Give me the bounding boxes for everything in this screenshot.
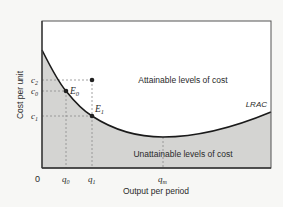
x-tick-qm: qm bbox=[158, 174, 168, 185]
x-tick-q0: q0 bbox=[62, 174, 70, 185]
y-tick-c2: c2 bbox=[31, 75, 38, 86]
lrac-label: LRAC bbox=[246, 100, 268, 109]
y-tick-c0: c0 bbox=[31, 86, 38, 97]
lrac-diagram: E0 E1 c2 c0 c1 0 q0 q1 qm Output per per… bbox=[0, 0, 283, 207]
x-tick-q1: q1 bbox=[88, 174, 96, 185]
x-axis-title: Output per period bbox=[123, 186, 189, 196]
point-e1 bbox=[90, 114, 95, 119]
attainable-label: Attainable levels of cost bbox=[138, 75, 228, 85]
unattainable-label: Unattainable levels of cost bbox=[133, 149, 233, 159]
point-c2-q1 bbox=[90, 78, 95, 83]
x-tick-origin: 0 bbox=[35, 174, 40, 184]
y-axis-title: Cost per unit bbox=[15, 70, 25, 119]
y-tick-c1: c1 bbox=[31, 111, 38, 122]
point-e0 bbox=[64, 89, 69, 94]
